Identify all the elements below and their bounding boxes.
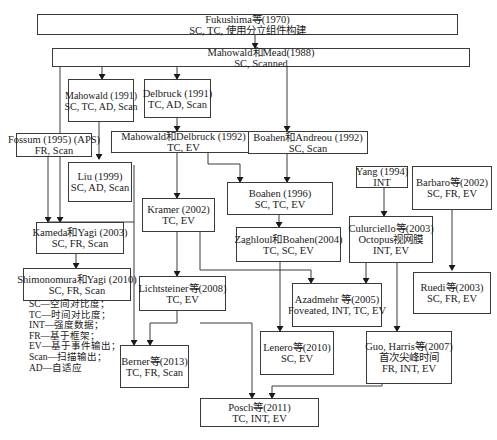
node-title: Kramer (2002): [147, 204, 210, 215]
edge-guo-posch: [272, 384, 382, 398]
node-attributes: Octopus视网膜: [359, 234, 424, 245]
node-guo-harris: Guo, Harris等(2007) 首次尖峰时间 FR, INT, EV: [366, 331, 452, 384]
node-shimonomura-yagi: Shimonomura和Yagi (2010) SC, FR, Scan: [23, 268, 131, 301]
node-title: Zaghloul和Boahen(2004): [235, 234, 343, 245]
node-attributes: INT: [373, 177, 391, 188]
node-title: Posch等(2011): [228, 402, 291, 413]
node-mahowald-1991: Mahowald (1991) SC, TC, AD, Scan: [68, 79, 134, 122]
node-title: Fossum (1995) (APS): [8, 134, 100, 145]
node-attributes: TC, INT, EV: [232, 413, 287, 424]
node-title: Barbaro等(2002): [416, 177, 488, 188]
node-azadmehr: Azadmehr 等(2005) Foveated, INT, TC, EV: [292, 283, 382, 327]
node-title: Lichtsteiner等(2008): [138, 283, 226, 294]
node-attributes: SC, FR, Scan: [49, 285, 106, 296]
node-title: Culurciello等(2003): [348, 223, 433, 234]
node-attributes: SC, FR, EV: [427, 293, 477, 304]
legend-item: INT—强度数据；: [29, 320, 121, 331]
legend-item: TC—时间对比度；: [29, 310, 121, 321]
node-title: Shimonomura和Yagi (2010): [17, 274, 136, 285]
node-title: Boahen (1996): [249, 188, 312, 199]
node-attributes: FR, Scan: [35, 145, 74, 156]
node-title: Fukushima等(1970): [205, 14, 290, 25]
legend-item: AD—自适应: [29, 363, 121, 374]
node-boahen-1996: Boahen (1996) SC, TC, EV: [227, 182, 333, 215]
node-attributes: SC, Scan: [289, 143, 328, 154]
node-title: Yang (1994): [356, 166, 408, 177]
node-mahowald-mead: Mahowald和Mead(1988) SC, Scanned: [52, 48, 470, 67]
node-lenero: Lenero等(2010) SC, EV: [260, 331, 334, 375]
node-culurciello: Culurciello等(2003) Octopus视网膜 INT, EV: [349, 216, 433, 263]
node-attributes-2: FR, INT, EV: [382, 363, 436, 374]
node-attributes: TC, EV: [166, 294, 199, 305]
legend-item: EV—基于事件输出；: [29, 341, 121, 352]
node-attributes: SC, Scanned: [234, 58, 288, 69]
legend-item: FR—基于框架；: [29, 331, 121, 342]
node-berner: Berner等(2013) TC, FR, Scan: [120, 345, 189, 388]
edge-lichtsteiner-berner: [150, 311, 177, 345]
node-boahen-andreou: Boahen和Andreou (1992) SC, Scan: [248, 131, 368, 154]
node-attributes: TC, AD, Scan: [148, 99, 207, 110]
node-attributes: SC, FR, EV: [427, 188, 477, 199]
node-fukushima: Fukushima等(1970) SC, TC, 使用分立组件构建: [37, 14, 458, 35]
node-title: Guo, Harris等(2007): [365, 341, 453, 352]
legend-item: Scan—扫描输出；: [29, 352, 121, 363]
node-ruedi: Ruedi等(2003) SC, FR, EV: [413, 272, 491, 314]
edge-mahowald-delbruck-boahen1996: [208, 153, 240, 182]
node-title: Delbruck (1991): [143, 88, 213, 99]
legend-item: SC—空间对比度；: [29, 299, 121, 310]
node-zaghloul-boahen: Zaghloul和Boahen(2004) TC, SC, EV: [236, 227, 341, 262]
node-title: Mahowald和Mead(1988): [208, 47, 315, 58]
node-attributes: TC, EV: [167, 142, 200, 153]
node-attributes: Foveated, INT, TC, EV: [288, 305, 386, 316]
node-attributes: TC, EV: [162, 215, 195, 226]
node-barbaro: Barbaro等(2002) SC, FR, EV: [412, 166, 492, 210]
node-kramer: Kramer (2002) TC, EV: [142, 198, 215, 232]
node-lichtsteiner: Lichtsteiner等(2008) TC, EV: [139, 276, 226, 311]
node-posch: Posch等(2011) TC, INT, EV: [200, 398, 319, 427]
node-attributes: TC, FR, Scan: [126, 367, 183, 378]
node-mahowald-delbruck: Mahowald和Delbruck (1992) TC, EV: [111, 131, 256, 153]
node-title: Liu (1999): [77, 171, 122, 182]
node-title: Azadmehr 等(2005): [295, 294, 379, 305]
node-title: Kameda和Yagi (2003): [33, 227, 128, 238]
node-attributes: TC, SC, EV: [263, 245, 314, 256]
node-attributes: SC, TC, AD, Scan: [64, 101, 137, 112]
node-kameda-yagi: Kameda和Yagi (2003) SC, FR, Scan: [36, 222, 124, 254]
node-title: Ruedi等(2003): [420, 282, 483, 293]
node-attributes: 首次尖峰时间: [379, 352, 439, 363]
node-title: Berner等(2013): [121, 356, 188, 367]
node-attributes-2: INT, EV: [373, 245, 409, 256]
node-liu: Liu (1999) SC, AD, Scan: [68, 162, 132, 202]
node-fossum: Fossum (1995) (APS) FR, Scan: [16, 133, 92, 157]
node-attributes: SC, AD, Scan: [71, 182, 129, 193]
node-attributes: SC, TC, 使用分立组件构建: [189, 25, 306, 36]
node-attributes: SC, EV: [281, 353, 313, 364]
node-attributes: SC, TC, EV: [255, 199, 306, 210]
node-title: Mahowald和Delbruck (1992): [121, 131, 246, 142]
node-yang: Yang (1994) INT: [356, 166, 408, 188]
node-title: Boahen和Andreou (1992): [253, 132, 362, 143]
node-title: Mahowald (1991): [65, 90, 137, 101]
node-attributes: SC, FR, Scan: [52, 238, 109, 249]
node-title: Lenero等(2010): [263, 342, 331, 353]
node-delbruck-1991: Delbruck (1991) TC, AD, Scan: [144, 79, 211, 118]
abbreviation-legend: SC—空间对比度； TC—时间对比度； INT—强度数据； FR—基于框架； E…: [29, 299, 121, 373]
